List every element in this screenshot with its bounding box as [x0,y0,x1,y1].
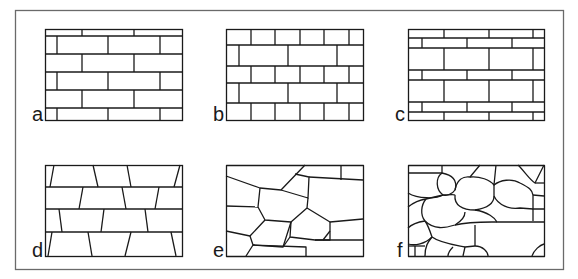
panel-e [226,165,364,257]
panel-c [408,29,545,121]
panel-b-label: b [213,103,224,125]
panel-d-label: d [32,239,43,261]
panel-a [45,29,183,121]
figure-frame [16,11,564,270]
panel-e-label: e [213,239,224,261]
panel-a-label: a [32,103,44,125]
panel-f [408,165,545,257]
panel-b [226,29,364,121]
panel-d [45,165,183,257]
panel-f-label: f [397,239,403,261]
masonry-patterns-figure: a b [0,0,578,279]
panel-c-label: c [395,103,405,125]
